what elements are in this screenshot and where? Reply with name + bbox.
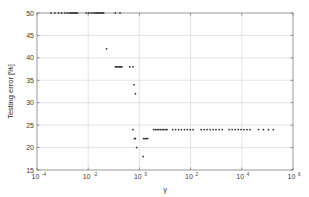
y-tick-label: 15 — [26, 167, 34, 174]
data-point — [187, 129, 189, 131]
data-point — [94, 12, 96, 14]
y-tick-label: 40 — [26, 54, 34, 61]
data-point — [92, 12, 94, 14]
y-tick-label: 50 — [26, 10, 34, 17]
data-point — [58, 12, 60, 14]
data-point — [88, 12, 90, 14]
y-tick-labels-group: 1520253035404550 — [26, 10, 34, 174]
data-point — [218, 129, 220, 131]
data-point — [136, 147, 138, 149]
x-tick-label-exponent: -4 — [42, 172, 47, 177]
x-tick-labels-group: 10-410-2100102104106 — [32, 172, 302, 180]
data-point — [103, 12, 105, 14]
x-tick-label-exponent: 6 — [298, 172, 301, 177]
data-point — [155, 129, 157, 131]
data-point — [68, 12, 70, 14]
x-tick-label-exponent: 4 — [247, 172, 250, 177]
y-tick-label: 45 — [26, 32, 34, 39]
data-point — [175, 129, 177, 131]
x-tick-label-exponent: -2 — [93, 172, 98, 177]
scatter-plot: 10-410-2100102104106 1520253035404550 γ … — [0, 0, 309, 197]
data-point — [209, 129, 211, 131]
data-point — [147, 138, 149, 140]
data-point — [246, 129, 248, 131]
data-point — [203, 129, 205, 131]
data-point — [70, 12, 72, 14]
tickmarks-group — [37, 13, 293, 170]
x-tick-label: 10 — [32, 173, 40, 180]
data-point — [115, 66, 117, 68]
data-point — [215, 129, 217, 131]
data-point — [106, 48, 108, 50]
data-point — [143, 138, 145, 140]
data-point — [156, 129, 158, 131]
data-point — [158, 129, 160, 131]
data-point — [61, 12, 63, 14]
y-tick-label: 30 — [26, 99, 34, 106]
y-tick-label: 25 — [26, 122, 34, 129]
data-point — [163, 129, 165, 131]
data-point — [153, 129, 155, 131]
data-point — [119, 12, 121, 14]
y-axis-title: Testing error [%] — [6, 64, 15, 119]
data-point — [135, 138, 137, 140]
y-tick-label: 35 — [26, 77, 34, 84]
data-point — [95, 12, 97, 14]
data-point — [66, 12, 68, 14]
data-point — [190, 129, 192, 131]
data-point — [172, 129, 174, 131]
x-tick-label: 10 — [83, 173, 91, 180]
data-point — [249, 129, 251, 131]
data-point — [86, 12, 88, 14]
data-point — [184, 129, 186, 131]
data-point — [161, 129, 163, 131]
data-point — [200, 129, 202, 131]
data-point — [100, 12, 102, 14]
data-point — [228, 129, 230, 131]
data-point — [160, 129, 162, 131]
data-point — [50, 12, 52, 14]
x-tick-label: 10 — [185, 173, 193, 180]
data-point — [142, 156, 144, 158]
data-point — [135, 93, 137, 95]
data-point — [237, 129, 239, 131]
data-points-group — [50, 12, 274, 157]
data-point — [77, 12, 79, 14]
data-point — [165, 129, 167, 131]
data-point — [231, 129, 233, 131]
data-point — [178, 129, 180, 131]
data-point — [132, 129, 134, 131]
data-point — [145, 138, 147, 140]
axis-frame — [37, 13, 293, 170]
gridlines-group — [37, 13, 293, 170]
x-tick-label-exponent: 2 — [196, 172, 199, 177]
data-point — [181, 129, 183, 131]
data-point — [54, 12, 56, 14]
data-point — [132, 66, 134, 68]
data-point — [243, 129, 245, 131]
y-tick-label: 20 — [26, 144, 34, 151]
x-axis-title: γ — [163, 185, 167, 194]
data-point — [121, 66, 123, 68]
data-point — [273, 129, 275, 131]
data-point — [90, 12, 92, 14]
chart-figure: 10-410-2100102104106 1520253035404550 γ … — [0, 0, 309, 197]
x-tick-label-exponent: 0 — [144, 172, 147, 177]
data-point — [206, 129, 208, 131]
data-point — [234, 129, 236, 131]
data-point — [258, 129, 260, 131]
data-point — [221, 129, 223, 131]
data-point — [212, 129, 214, 131]
data-point — [64, 12, 66, 14]
data-point — [166, 129, 168, 131]
data-point — [129, 66, 131, 68]
data-point — [133, 84, 135, 86]
x-tick-label: 10 — [134, 173, 142, 180]
data-point — [240, 129, 242, 131]
data-point — [115, 12, 117, 14]
data-point — [99, 12, 101, 14]
x-tick-label: 10 — [236, 173, 244, 180]
data-point — [192, 129, 194, 131]
data-point — [268, 129, 270, 131]
data-point — [263, 129, 265, 131]
